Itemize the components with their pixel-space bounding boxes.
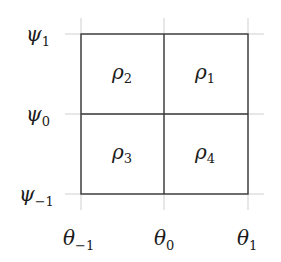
x-label-theta-1: θ1 (237, 226, 257, 253)
x-label-theta-0: θ0 (154, 226, 174, 253)
cell-label-rho-1: ρ1 (194, 60, 215, 86)
y-label-psi-1: ψ1 (26, 22, 50, 49)
cell-label-rho-3: ρ3 (111, 140, 132, 166)
x-label-theta-minus-1: θ−1 (63, 226, 94, 253)
grid-lines (81, 34, 248, 194)
partition-diagram: ψ1 ψ0 ψ−1 θ−1 θ0 θ1 ρ2 ρ1 ρ3 ρ4 (0, 0, 281, 262)
cell-label-rho-2: ρ2 (111, 60, 132, 86)
y-label-psi-minus-1: ψ−1 (19, 182, 54, 209)
cell-label-rho-4: ρ4 (194, 140, 215, 166)
y-label-psi-0: ψ0 (26, 102, 50, 129)
